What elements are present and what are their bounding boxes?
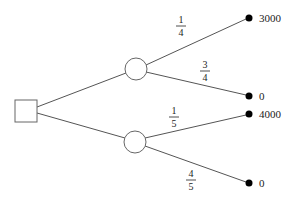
chance-node-upper xyxy=(125,58,147,80)
probability-label-4-5: 4 5 xyxy=(186,168,196,192)
payoff-label-upper-0: 0 xyxy=(259,90,265,102)
edge-lower-to-4000 xyxy=(145,115,246,138)
edge-upper-to-3000 xyxy=(146,19,246,65)
fraction-numerator: 4 xyxy=(189,168,194,179)
terminal-node-lower-0 xyxy=(246,180,253,187)
decision-node-square xyxy=(15,100,37,122)
payoff-label-3000: 3000 xyxy=(259,12,282,24)
probability-label-3-4: 3 4 xyxy=(200,59,210,83)
fraction-numerator: 1 xyxy=(179,14,184,25)
terminal-node-upper-0 xyxy=(246,93,253,100)
fraction-denominator: 4 xyxy=(203,72,208,83)
terminal-node-3000 xyxy=(246,15,253,22)
edge-decision-to-lower-chance xyxy=(37,113,125,138)
probability-label-1-4: 1 4 xyxy=(176,14,186,38)
fraction-denominator: 4 xyxy=(179,27,184,38)
edge-upper-to-0 xyxy=(146,72,246,95)
fraction-numerator: 3 xyxy=(203,59,208,70)
fraction-denominator: 5 xyxy=(172,118,177,129)
decision-tree-diagram: 3000 0 4000 0 1 4 3 4 1 5 4 5 xyxy=(0,0,292,202)
probability-label-1-5: 1 5 xyxy=(169,105,179,129)
fraction-denominator: 5 xyxy=(189,181,194,192)
fraction-numerator: 1 xyxy=(172,105,177,116)
edge-lower-to-0 xyxy=(145,146,246,182)
payoff-label-4000: 4000 xyxy=(259,108,282,120)
edge-decision-to-upper-chance xyxy=(37,73,126,107)
payoff-label-lower-0: 0 xyxy=(259,177,265,189)
chance-node-lower xyxy=(124,131,146,153)
terminal-node-4000 xyxy=(246,111,253,118)
